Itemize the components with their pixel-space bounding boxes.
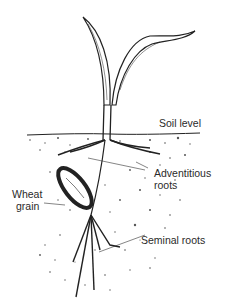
diagram-drawing bbox=[0, 0, 226, 300]
label-seminal-roots: Seminal roots bbox=[141, 234, 205, 246]
wheat-seedling-diagram: Soil level Adventitious roots Wheat grai… bbox=[0, 0, 226, 300]
left-leaf bbox=[83, 17, 110, 105]
seminal-roots bbox=[73, 215, 120, 297]
label-soil-level: Soil level bbox=[159, 117, 201, 129]
label-adventitious-roots-line2: roots bbox=[154, 179, 177, 191]
right-leaf bbox=[112, 31, 195, 105]
label-adventitious-roots-line1: Adventitious bbox=[154, 167, 211, 179]
soil-speckles bbox=[29, 137, 191, 291]
label-wheat-grain-line2: grain bbox=[16, 200, 39, 212]
soil-surface-line bbox=[27, 133, 200, 135]
label-wheat-grain-line1: Wheat bbox=[12, 188, 42, 200]
stem bbox=[103, 105, 111, 140]
adventitious-roots bbox=[58, 140, 160, 155]
wheat-grain bbox=[52, 163, 97, 213]
